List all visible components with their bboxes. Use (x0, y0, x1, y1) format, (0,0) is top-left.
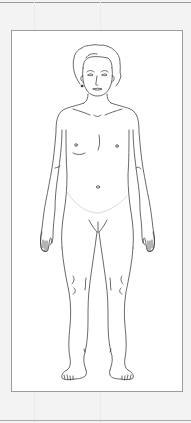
nipple-left (75, 144, 78, 147)
right-leg-inner (99, 232, 112, 370)
sternum-line (98, 135, 100, 150)
body-outline-figure (0, 0, 191, 423)
eye-left (88, 74, 93, 76)
navel (96, 186, 99, 189)
groin-left (89, 220, 97, 232)
left-arm-inner (50, 130, 62, 245)
right-fingers (148, 240, 152, 250)
hair-strand (86, 54, 97, 58)
torso-left-side (62, 130, 67, 248)
sternal-notch (94, 115, 101, 117)
left-knee-inner (85, 278, 86, 290)
clavicle-right (105, 109, 122, 115)
left-fingers (43, 240, 47, 250)
left-leg-outer (62, 248, 71, 370)
eye-right (102, 74, 107, 76)
earring (81, 85, 83, 87)
pelvic-faint-line (67, 192, 127, 213)
mouth (93, 88, 102, 90)
right-knee-inner (110, 278, 111, 290)
nose (96, 76, 98, 85)
nipple-right (116, 145, 119, 148)
brow-right (101, 71, 108, 73)
right-leg-outer (124, 248, 133, 370)
neck-left (84, 94, 88, 103)
right-elbow-mark (136, 167, 141, 169)
left-knee-mark (72, 276, 75, 294)
right-hand (143, 232, 155, 252)
right-knee-mark (120, 276, 123, 294)
left-leg-inner (84, 232, 97, 370)
torso-right-side (128, 130, 133, 248)
clavicle-left (73, 109, 90, 115)
right-foot (110, 370, 134, 380)
groin-right (99, 220, 107, 232)
brow-left (87, 71, 94, 73)
neck-right (107, 94, 111, 103)
left-hand (41, 232, 53, 252)
left-ankle-mark (84, 349, 85, 352)
page (0, 0, 191, 423)
bottom-divider (0, 420, 191, 421)
right-arm-inner (133, 130, 145, 245)
chest-fold-left (73, 153, 85, 155)
left-foot (62, 370, 87, 380)
hair-inner (83, 57, 112, 68)
